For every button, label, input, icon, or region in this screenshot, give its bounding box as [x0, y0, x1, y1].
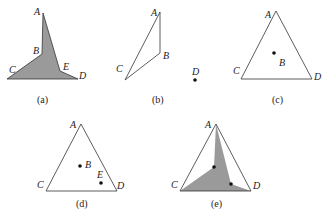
label-c: C [233, 65, 240, 76]
point-b [78, 164, 82, 168]
triangle-acd [46, 124, 117, 191]
point-e [229, 182, 233, 186]
label-e: E [96, 169, 103, 180]
caption-e: (e) [211, 198, 222, 210]
caption-b: (b) [152, 94, 164, 106]
point-b [212, 165, 216, 169]
label-d: D [191, 66, 200, 77]
triangle-acd [241, 11, 312, 79]
label-b: B [163, 50, 169, 61]
label-d: D [78, 70, 87, 81]
panel-b: A B C D (b) [116, 7, 200, 106]
label-a: A [204, 119, 212, 130]
label-b: B [33, 45, 39, 56]
panel-c: A B C D (c) [233, 9, 322, 106]
panel-e: A C D (e) [171, 119, 261, 210]
triangle-abc [125, 12, 160, 80]
label-c: C [171, 179, 178, 190]
shaded-polygon-abcde [180, 124, 251, 191]
label-d: D [116, 180, 125, 191]
label-d: D [252, 180, 261, 191]
label-b: B [279, 57, 285, 68]
caption-a: (a) [37, 94, 48, 106]
label-c: C [9, 64, 16, 75]
panel-d: A B C E D (d) [37, 119, 125, 210]
label-a: A [33, 6, 41, 17]
panel-a: A B C E D (a) [7, 6, 87, 106]
label-a: A [264, 9, 272, 20]
label-d: D [313, 71, 322, 82]
label-a: A [150, 7, 158, 18]
label-e: E [62, 61, 69, 72]
point-e [99, 181, 103, 185]
label-a: A [69, 119, 77, 130]
caption-d: (d) [76, 198, 88, 210]
label-c: C [116, 63, 123, 74]
label-c: C [37, 179, 44, 190]
caption-c: (c) [272, 94, 283, 106]
label-b: B [85, 159, 91, 170]
point-d [193, 78, 197, 82]
geometry-figure: A B C E D (a) A B C D (b) A B C D (c) A … [0, 0, 330, 221]
point-b [272, 51, 276, 55]
